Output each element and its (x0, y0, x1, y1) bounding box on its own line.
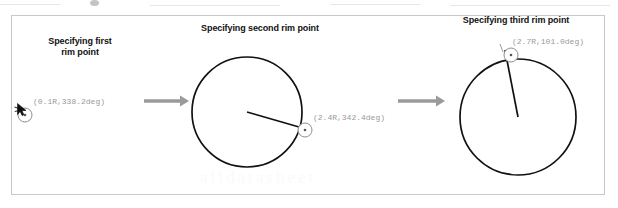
artifact-line (330, 4, 420, 5)
figure-root: alldatasheet Specifying first rim point … (0, 0, 618, 208)
coordinate-label-second: (2.4R,342.4deg) (313, 113, 385, 122)
watermark-text: alldatasheet (200, 168, 420, 190)
artifact-line (0, 4, 60, 5)
coordinate-label-first: (0.1R,338.2deg) (33, 97, 105, 106)
panel-title-third: Specifying third rim point (430, 15, 602, 26)
artifact-smudge (90, 0, 99, 6)
panel-title-first: Specifying first rim point (22, 36, 138, 58)
top-edge-artifact (0, 0, 618, 9)
artifact-line (450, 5, 610, 6)
coordinate-label-third: (2.7R,101.0deg) (512, 37, 584, 46)
artifact-line (150, 5, 280, 6)
panel-title-second: Specifying second rim point (176, 23, 344, 34)
